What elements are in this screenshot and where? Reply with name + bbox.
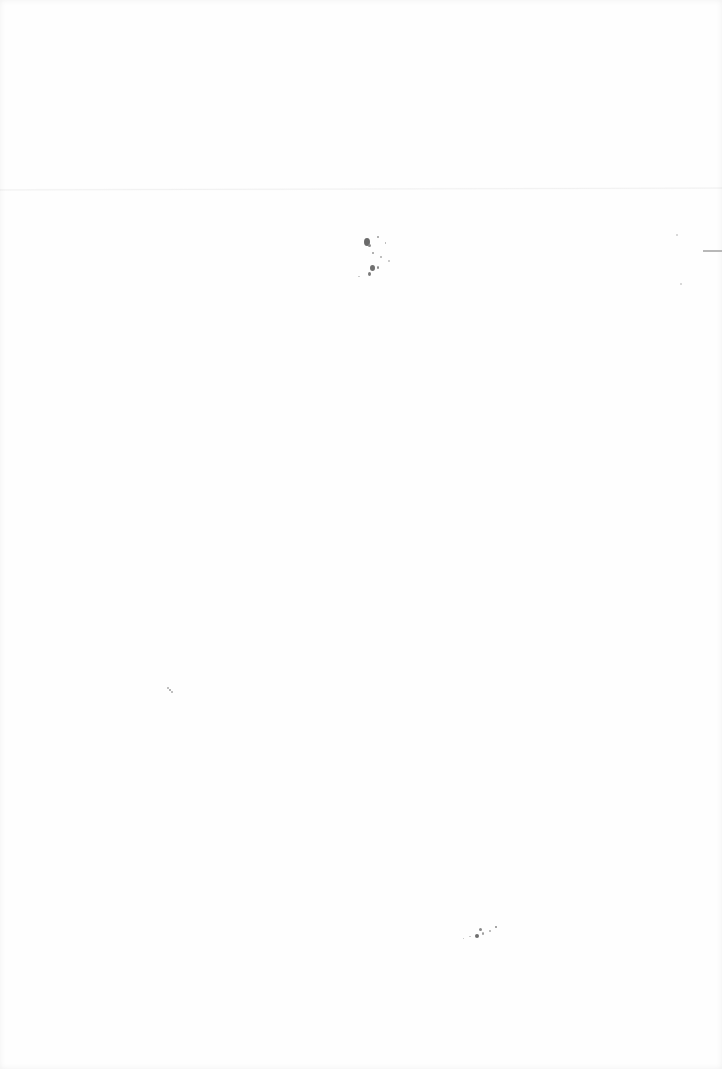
speck bbox=[680, 283, 682, 285]
edge-mark bbox=[703, 250, 722, 252]
speckle-cluster-left bbox=[165, 685, 177, 697]
speckle-cluster-bottom bbox=[455, 920, 505, 950]
speck bbox=[676, 234, 678, 236]
blank-page bbox=[0, 0, 722, 1069]
speckle-cluster-top bbox=[350, 232, 400, 282]
fold-line bbox=[0, 187, 722, 191]
